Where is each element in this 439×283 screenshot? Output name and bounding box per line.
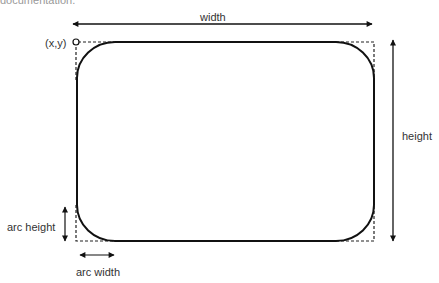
arc-height-label: arc height	[7, 222, 55, 233]
origin-label: (x,y)	[45, 38, 66, 49]
bounding-box-dashed	[76, 42, 374, 241]
arc-width-label: arc width	[76, 267, 120, 278]
origin-point-icon	[73, 39, 79, 45]
height-label: height	[402, 131, 432, 142]
rounded-rectangle	[77, 42, 374, 241]
width-label: width	[200, 12, 226, 23]
